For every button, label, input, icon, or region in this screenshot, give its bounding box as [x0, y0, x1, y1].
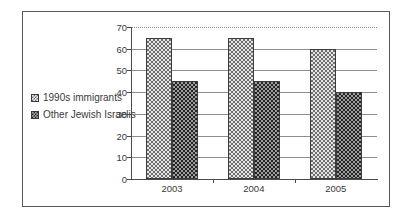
bar: [146, 38, 172, 179]
y-axis-tick-label: 10: [101, 153, 127, 163]
y-axis-tick-mark: [127, 92, 131, 93]
y-axis-tick-mark: [127, 114, 131, 115]
bar: [228, 38, 254, 179]
bar: [310, 49, 336, 179]
x-axis-tick-label: 2005: [295, 183, 377, 199]
y-axis-tick-mark: [127, 27, 131, 28]
x-axis-line: [131, 179, 378, 180]
x-axis-tick-label: 2004: [213, 183, 295, 199]
bar: [336, 92, 362, 179]
y-axis-tick-label: 0: [101, 175, 127, 185]
y-axis-tick-mark: [127, 179, 131, 180]
y-axis-line: [131, 27, 132, 180]
legend-swatch-light-checker-icon: [31, 94, 39, 102]
y-axis-tick-label: 40: [101, 88, 127, 98]
y-axis-tick-label: 20: [101, 132, 127, 142]
bar-groups: [131, 27, 377, 179]
x-axis-tick-label: 2003: [131, 183, 213, 199]
y-axis-tick-mark: [127, 157, 131, 158]
y-axis-tick-mark: [127, 70, 131, 71]
x-axis-tick-mark: [295, 179, 296, 183]
y-axis-tick-labels: 706050403020100: [99, 27, 127, 179]
chart-figure: 1990s immigrants Other Jewish Israelis 7…: [22, 11, 390, 207]
bar: [172, 81, 198, 179]
bar-group: [131, 27, 213, 179]
bar: [254, 81, 280, 179]
bar-group: [295, 27, 377, 179]
y-axis-tick-label: 70: [101, 23, 127, 33]
y-axis-tick-label: 50: [101, 66, 127, 76]
y-axis-tick-label: 30: [101, 110, 127, 120]
x-axis-tick-mark: [213, 179, 214, 183]
y-axis-tick-mark: [127, 49, 131, 50]
plot-area: [131, 27, 377, 179]
legend-swatch-dark-checker-icon: [31, 111, 39, 119]
x-axis-tick-labels: 200320042005: [131, 183, 377, 199]
y-axis-tick-mark: [127, 136, 131, 137]
y-axis-tick-label: 60: [101, 45, 127, 55]
bar-group: [213, 27, 295, 179]
